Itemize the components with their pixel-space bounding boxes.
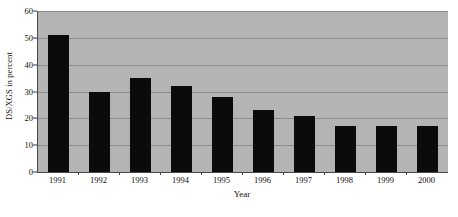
y-axis-tick-label: 40 bbox=[16, 60, 33, 69]
x-axis-tick-label: 1996 bbox=[254, 175, 271, 185]
y-axis-tick-label: 50 bbox=[16, 34, 33, 43]
y-axis-tick-label: 10 bbox=[16, 141, 33, 150]
x-axis-tick-labels: 1991199219931994199519961997199819992000 bbox=[37, 175, 447, 189]
bar bbox=[417, 126, 438, 172]
x-axis-tick-label: 1991 bbox=[49, 175, 66, 185]
x-axis-title: Year bbox=[37, 189, 447, 199]
bar-chart: DS/XGS in percent 0102030405060 19911992… bbox=[0, 0, 458, 217]
x-axis-tick-label: 1993 bbox=[131, 175, 148, 185]
bar bbox=[212, 97, 233, 172]
x-axis-tick-label: 1995 bbox=[213, 175, 230, 185]
bar bbox=[48, 35, 69, 172]
y-axis-tick-label: 0 bbox=[16, 168, 33, 177]
bar bbox=[335, 126, 356, 172]
x-axis-tick-label: 1997 bbox=[295, 175, 312, 185]
y-axis-title-label: DS/XGS in percent bbox=[4, 52, 14, 120]
y-axis-tick-label: 20 bbox=[16, 114, 33, 123]
bar bbox=[253, 110, 274, 172]
plot-area bbox=[37, 11, 448, 173]
x-axis-tick-label: 1992 bbox=[90, 175, 107, 185]
y-axis-tick-label: 30 bbox=[16, 87, 33, 96]
bar bbox=[130, 78, 151, 172]
bar-series bbox=[38, 11, 448, 172]
bar bbox=[376, 126, 397, 172]
x-axis-tick-label: 1999 bbox=[377, 175, 394, 185]
bar bbox=[171, 86, 192, 172]
x-axis-tick-label: 2000 bbox=[418, 175, 435, 185]
bar bbox=[89, 92, 110, 173]
bar bbox=[294, 116, 315, 172]
y-axis-tick-label: 60 bbox=[16, 7, 33, 16]
y-axis-tick-labels: 0102030405060 bbox=[16, 11, 33, 172]
y-axis-title: DS/XGS in percent bbox=[2, 0, 16, 172]
x-axis-tick-label: 1998 bbox=[336, 175, 353, 185]
x-axis-tick-label: 1994 bbox=[172, 175, 189, 185]
